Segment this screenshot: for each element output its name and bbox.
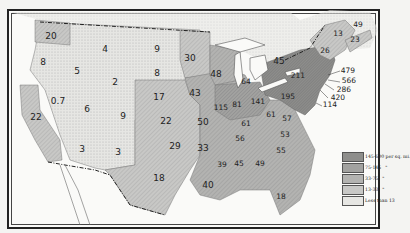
- legend-ditto-mark: ": [385, 165, 387, 170]
- label-virginia: 57: [282, 114, 292, 123]
- label-ontario: 45: [273, 56, 284, 66]
- label-kansas: 22: [160, 116, 171, 126]
- label-ohio: 141: [251, 97, 266, 106]
- label-south-dakota: 8: [154, 68, 160, 78]
- legend-item-33-75: 33-75 ": [342, 173, 382, 184]
- legend-swatch-75-145: [342, 163, 364, 173]
- label-montana: 4: [102, 44, 108, 54]
- legend-item-lt13: Less than 13: [342, 195, 382, 206]
- label-nebraska: 17: [153, 92, 164, 102]
- legend-swatch-13-33: [342, 185, 364, 195]
- legend-ditto-mark: ": [382, 176, 384, 181]
- legend-label: Less than 13: [365, 198, 395, 203]
- label-mississippi: 39: [217, 160, 227, 169]
- legend-label: 75-145: [365, 165, 381, 170]
- label-delaware: 114: [323, 100, 338, 109]
- label-massachusetts: 479: [341, 66, 356, 75]
- label-maine: 26: [320, 46, 330, 55]
- label-utah: 6: [84, 104, 90, 114]
- label-new-york: 211: [291, 71, 306, 80]
- label-texas: 18: [153, 173, 165, 183]
- legend-swatch-145-600: [342, 152, 364, 162]
- label-pei: 49: [353, 20, 363, 29]
- label-illinois: 115: [214, 103, 229, 112]
- map-legend: 145-600 per sq. mi. 75-145 " 33-75 " 13-…: [342, 151, 382, 206]
- label-wyoming: 2: [112, 77, 118, 87]
- label-idaho: 5: [74, 66, 80, 76]
- label-florida: 18: [276, 192, 286, 201]
- label-pennsylvania: 195: [281, 92, 296, 101]
- label-wisconsin: 48: [210, 69, 222, 79]
- label-oklahoma: 29: [169, 141, 181, 151]
- label-indiana: 81: [232, 100, 242, 109]
- label-kentucky: 61: [241, 119, 251, 128]
- label-georgia: 49: [255, 159, 265, 168]
- label-north-dakota: 9: [154, 44, 160, 54]
- label-louisiana: 40: [202, 180, 214, 190]
- legend-swatch-lt13: [342, 196, 364, 206]
- label-missouri: 50: [197, 117, 209, 127]
- legend-item-75-145: 75-145 ": [342, 162, 382, 173]
- label-north-carolina: 53: [280, 130, 290, 139]
- label-alabama: 45: [234, 159, 244, 168]
- legend-label: 33-75: [365, 176, 378, 181]
- label-nova-scotia: 23: [350, 35, 360, 44]
- legend-label: 13-33: [365, 187, 378, 192]
- legend-item-145-600: 145-600 per sq. mi.: [342, 151, 382, 162]
- baja-outline: [60, 165, 90, 225]
- label-oregon: 8: [40, 57, 46, 67]
- label-colorado: 9: [120, 111, 126, 121]
- label-arizona: 3: [79, 144, 85, 154]
- label-iowa: 43: [189, 88, 200, 98]
- legend-label: 145-600 per sq. mi.: [365, 154, 410, 159]
- legend-swatch-33-75: [342, 174, 364, 184]
- label-michigan: 64: [241, 77, 251, 86]
- label-south-carolina: 55: [276, 146, 286, 155]
- label-california: 22: [30, 112, 41, 122]
- label-rhode-island: 566: [342, 76, 357, 85]
- legend-ditto-mark: ": [382, 187, 384, 192]
- label-new-brunswick: 13: [333, 29, 343, 38]
- label-minnesota: 30: [184, 53, 196, 63]
- label-nevada: 0.7: [51, 96, 65, 106]
- label-arkansas: 33: [197, 143, 208, 153]
- label-new-mexico: 3: [115, 147, 121, 157]
- label-tennessee: 56: [235, 134, 245, 143]
- label-west-virginia: 61: [266, 110, 276, 119]
- legend-item-13-33: 13-33 ": [342, 184, 382, 195]
- label-washington: 20: [45, 31, 57, 41]
